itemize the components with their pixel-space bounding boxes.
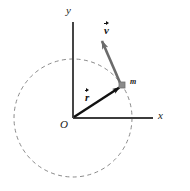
diagram-canvas (0, 0, 190, 191)
velocity-vector-symbol: v (104, 25, 109, 36)
position-vector-arrow (74, 88, 120, 118)
mass-marker (119, 82, 125, 88)
x-axis-label: x (158, 110, 163, 121)
origin-label: O (60, 119, 68, 130)
y-axis-label: y (66, 5, 71, 16)
mass-label: m (130, 78, 136, 86)
vector-arrow-overbar-v (104, 21, 109, 25)
angular-momentum-diagram: y x O m v r (0, 0, 190, 191)
velocity-vector-label: v (104, 21, 109, 36)
vector-arrow-overbar-r (85, 88, 89, 92)
position-vector-symbol: r (85, 92, 89, 103)
position-vector-label: r (85, 88, 89, 103)
velocity-vector-arrow (102, 41, 121, 85)
